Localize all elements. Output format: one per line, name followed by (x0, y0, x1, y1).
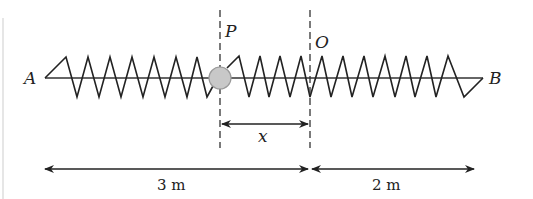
label-p: P (224, 21, 237, 41)
left-spring (45, 57, 213, 97)
label-b: B (488, 68, 502, 88)
label-x: x (258, 126, 268, 146)
label-a: A (22, 68, 36, 88)
mass-ball (209, 67, 231, 89)
label-3m: 3 m (157, 176, 186, 194)
label-2m: 2 m (372, 176, 401, 194)
spring-mass-diagram: A B P O x 3 m 2 m (0, 0, 533, 199)
label-o: O (315, 32, 329, 52)
right-spring (227, 56, 483, 97)
